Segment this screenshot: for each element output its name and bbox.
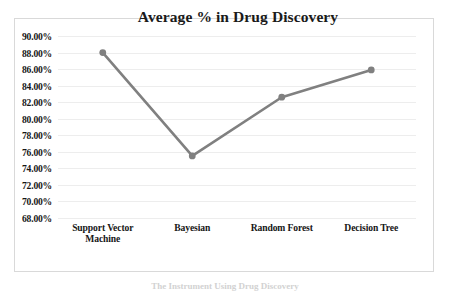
y-tick-label: 88.00%: [22, 47, 52, 58]
x-tick-label: Support VectorMachine: [58, 222, 148, 266]
y-axis: 90.00%88.00%86.00%84.00%82.00%80.00%78.0…: [0, 36, 56, 218]
y-tick-label: 90.00%: [22, 31, 52, 42]
y-tick-label: 70.00%: [22, 196, 52, 207]
y-tick-label: 78.00%: [22, 130, 52, 141]
data-point-marker[interactable]: [278, 94, 285, 101]
x-tick-label: Random Forest: [237, 222, 327, 266]
data-point-marker[interactable]: [189, 153, 196, 160]
gridline: [58, 218, 416, 219]
y-tick-label: 80.00%: [22, 113, 52, 124]
line-series: [58, 36, 416, 218]
series-line: [103, 53, 372, 156]
data-point-marker[interactable]: [99, 49, 106, 56]
data-point-marker[interactable]: [368, 67, 375, 74]
figure-caption-strip: The Instrument Using Drug Discovery: [0, 283, 450, 294]
plot-area: [58, 36, 416, 218]
y-tick-label: 74.00%: [22, 163, 52, 174]
x-tick-label: Decision Tree: [327, 222, 417, 266]
chart-title: Average % in Drug Discovery: [58, 8, 418, 25]
y-tick-label: 86.00%: [22, 64, 52, 75]
x-axis: Support VectorMachineBayesianRandom Fore…: [58, 222, 416, 266]
y-tick-label: 84.00%: [22, 80, 52, 91]
y-tick-label: 72.00%: [22, 179, 52, 190]
figure-caption: The Instrument Using Drug Discovery: [0, 283, 450, 291]
y-tick-label: 82.00%: [22, 97, 52, 108]
y-tick-label: 68.00%: [22, 213, 52, 224]
x-tick-label: Bayesian: [148, 222, 238, 266]
y-tick-label: 76.00%: [22, 146, 52, 157]
